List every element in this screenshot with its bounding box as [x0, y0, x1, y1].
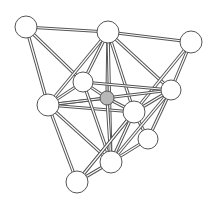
atom-C	[180, 31, 202, 53]
center-atom	[100, 91, 114, 105]
bond-A-B	[26, 27, 108, 32]
atom-B	[97, 21, 119, 43]
bond-I-K	[111, 90, 171, 162]
atom-A	[15, 16, 37, 38]
atom-F	[123, 101, 145, 123]
atom-I	[161, 80, 181, 100]
cluster-diagram	[0, 0, 216, 205]
atom-K	[100, 151, 122, 173]
atom-G	[37, 94, 59, 116]
bond-B-C	[108, 32, 191, 42]
atom-D	[73, 72, 93, 92]
atom-H	[66, 171, 88, 193]
atom-J	[138, 129, 158, 149]
